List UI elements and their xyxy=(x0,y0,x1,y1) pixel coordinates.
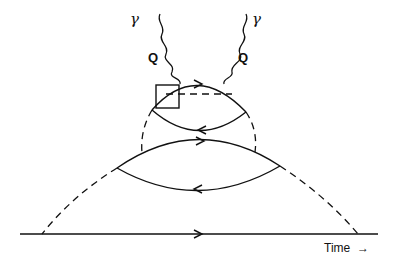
upper-loop-top-arrow xyxy=(194,80,202,88)
time-arrow-icon: → xyxy=(357,241,369,255)
photon-line-left xyxy=(159,14,180,84)
photon-label-right: γ xyxy=(252,10,261,28)
outer-dashed-right xyxy=(280,166,358,234)
momentum-label-left: Q xyxy=(148,50,158,65)
feynman-diagram: γ γ Q Q Time → xyxy=(0,0,395,264)
photon-line-right xyxy=(224,14,247,84)
photon-label-left: γ xyxy=(130,10,139,28)
momentum-label-right: Q xyxy=(238,50,248,65)
upper-loop-bottom-line xyxy=(152,110,246,131)
inner-dashed-right xyxy=(246,112,256,152)
lower-loop-top-arrow xyxy=(196,137,204,145)
lower-loop-bottom-arrow xyxy=(194,185,202,193)
outer-dashed-left xyxy=(42,168,117,234)
time-label: Time xyxy=(324,241,351,255)
inner-dashed-left xyxy=(142,110,152,153)
